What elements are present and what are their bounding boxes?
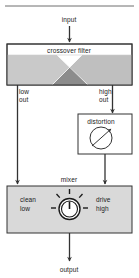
mixer-high-label: high (96, 205, 109, 213)
low-out-label-line2: out (19, 96, 28, 104)
diagram-canvas (0, 0, 139, 278)
rotary-knob-icon[interactable] (59, 199, 80, 220)
input-label: input (62, 16, 77, 24)
high-out-label-line1: high (99, 88, 112, 96)
mixer-clean-label: clean (20, 196, 36, 204)
crossover-filter-title: crossover filter (47, 47, 91, 55)
variable-attenuator-icon (90, 127, 112, 149)
output-label: output (60, 266, 79, 274)
mixer-drive-label: drive (96, 196, 111, 204)
high-out-label-line2: out (99, 96, 108, 104)
mixer-low-label: low (20, 205, 30, 213)
distortion-title: distortion (87, 118, 114, 126)
mixer-label: mixer (61, 176, 77, 184)
signal-flow-diagram: input crossover filter low out high out … (0, 0, 139, 278)
low-out-label-line1: low (19, 88, 29, 96)
